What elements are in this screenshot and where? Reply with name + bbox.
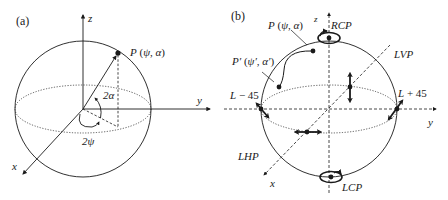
x-axis-label-a: x bbox=[11, 160, 17, 172]
y-axis-label-a: y bbox=[196, 94, 202, 106]
transition-curve bbox=[279, 51, 312, 87]
lhp-point bbox=[305, 130, 310, 135]
point-p-a bbox=[115, 50, 120, 55]
p-leader-line bbox=[291, 30, 307, 45]
lcp-label: LCP bbox=[341, 181, 362, 193]
panel-b: (b) z y x RCP LCP LVP bbox=[224, 9, 436, 193]
z-axis-label-b: z bbox=[313, 14, 318, 24]
vector-p-a bbox=[83, 56, 116, 109]
point-p-prime-label: P′ (ψ′, α′) bbox=[231, 55, 275, 68]
point-p-label-b: P (ψ, α) bbox=[267, 19, 303, 32]
lvp-marker bbox=[348, 74, 353, 101]
rcp-label: RCP bbox=[330, 19, 352, 31]
z-axis-label-a: z bbox=[87, 12, 93, 24]
panel-a-label: (a) bbox=[16, 14, 29, 28]
point-p-label-a: P (ψ, α) bbox=[129, 46, 165, 59]
state-transition: P (ψ, α) P′ (ψ′, α′) bbox=[231, 19, 315, 89]
lhp-label: LHP bbox=[237, 150, 259, 162]
l-minus-45-point bbox=[259, 107, 264, 112]
p-prime-leader-line bbox=[262, 72, 274, 82]
angle-psi-label: 2ψ bbox=[82, 135, 95, 147]
angle-alpha-arc bbox=[95, 98, 101, 118]
x-axis-a bbox=[23, 109, 83, 174]
x-axis-label-b: x bbox=[269, 177, 275, 189]
angle-alpha-label: 2α bbox=[103, 89, 115, 101]
rcp-point bbox=[327, 36, 332, 41]
lvp-label: LVP bbox=[393, 48, 413, 60]
x-axis-b bbox=[264, 45, 390, 175]
l-plus-45-point bbox=[395, 107, 400, 112]
lvp-point bbox=[348, 85, 353, 90]
l-plus-45-label: L + 45 bbox=[397, 87, 427, 99]
y-axis-label-b: y bbox=[427, 116, 433, 128]
lcp-point bbox=[329, 175, 334, 180]
poincare-sphere-figure: (a) z y x P (ψ, α) 2α 2ψ (b) bbox=[0, 0, 448, 200]
panel-a: (a) z y x P (ψ, α) 2α 2ψ bbox=[11, 12, 210, 177]
rcp-marker: RCP bbox=[318, 19, 352, 44]
lcp-marker: LCP bbox=[320, 172, 362, 194]
l-minus-45-label: L − 45 bbox=[229, 89, 259, 101]
panel-b-label: (b) bbox=[231, 9, 245, 23]
